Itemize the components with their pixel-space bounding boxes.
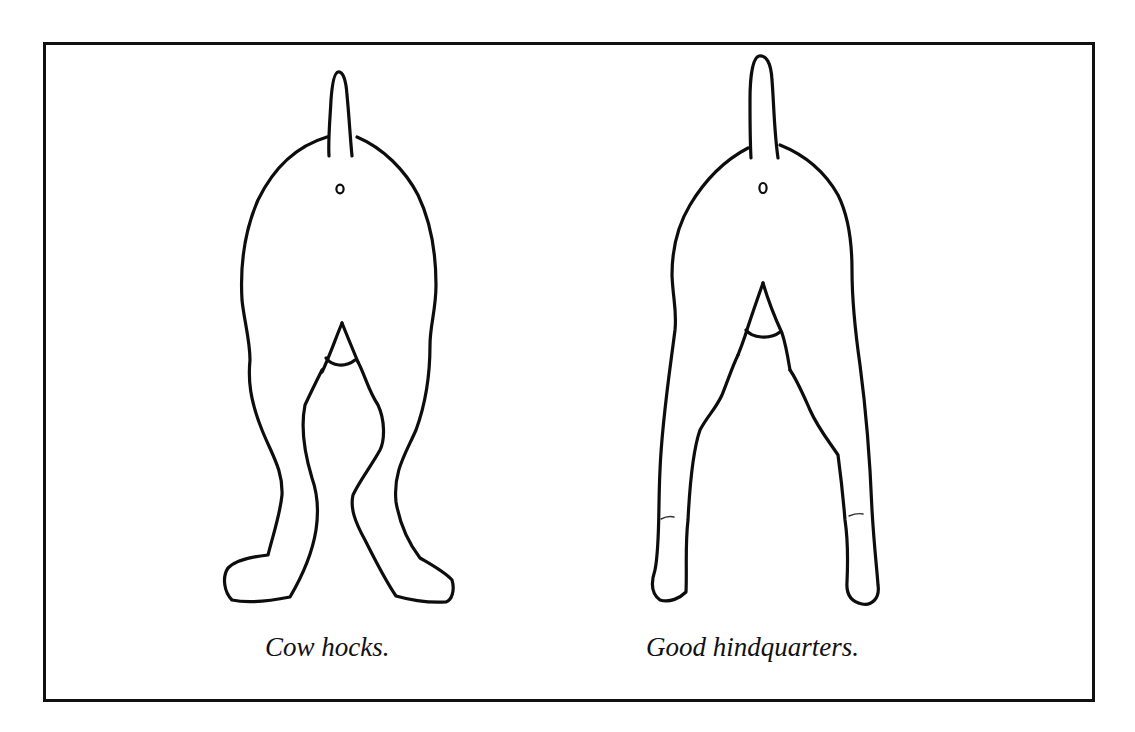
right-tail	[750, 56, 778, 158]
left-body-outline-right	[352, 137, 453, 602]
left-tail	[329, 72, 352, 156]
right-hock-mark-left	[661, 517, 674, 519]
right-anus	[759, 183, 766, 193]
cow-hocks-drawing	[225, 72, 454, 602]
hindquarters-illustration	[0, 0, 1135, 732]
left-body-outline	[225, 137, 327, 602]
right-inner-leg-left	[738, 283, 763, 355]
right-inner-leg-right	[763, 283, 790, 370]
left-anus	[336, 185, 343, 194]
left-scrotum	[326, 358, 355, 365]
right-hock-mark-right	[849, 514, 863, 516]
good-hindquarters-drawing	[653, 56, 879, 604]
right-body-outline-left	[653, 148, 748, 601]
caption-cow-hocks: Cow hocks.	[265, 634, 390, 661]
right-body-outline-right	[780, 145, 878, 604]
right-scrotum	[746, 330, 780, 337]
left-inner-leg-right	[342, 323, 358, 362]
caption-good-hindquarters: Good hindquarters.	[646, 634, 859, 661]
